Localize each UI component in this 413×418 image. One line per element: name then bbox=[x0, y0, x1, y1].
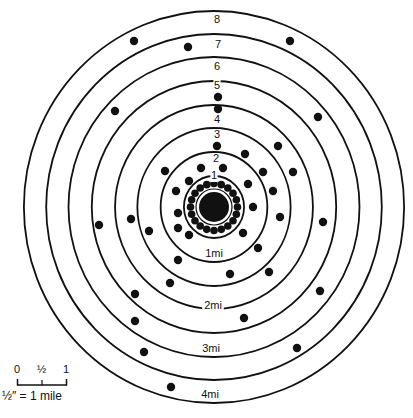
point-marker bbox=[293, 344, 301, 352]
point-marker bbox=[239, 229, 247, 237]
ring-number-label: 3 bbox=[214, 128, 220, 140]
scale-tick-1: 1 bbox=[63, 363, 69, 375]
point-marker bbox=[174, 256, 182, 264]
point-marker bbox=[314, 113, 322, 121]
ring-number-label: 8 bbox=[214, 13, 220, 25]
point-marker bbox=[241, 150, 249, 158]
point-marker bbox=[131, 317, 139, 325]
scale-tick-half: ½ bbox=[37, 363, 46, 375]
ring-number-label: 2 bbox=[213, 152, 219, 164]
ring-number-label: 6 bbox=[214, 60, 220, 72]
point-marker bbox=[131, 290, 139, 298]
ring-number-label: 5 bbox=[214, 79, 220, 91]
distance-label: 2mi bbox=[204, 299, 222, 311]
point-marker bbox=[219, 164, 227, 172]
point-marker bbox=[319, 218, 327, 226]
scale-tick-0: 0 bbox=[14, 363, 20, 375]
point-marker bbox=[274, 142, 282, 150]
point-marker bbox=[213, 142, 221, 150]
point-marker bbox=[289, 168, 297, 176]
core-dot bbox=[187, 203, 195, 211]
point-marker bbox=[254, 244, 262, 252]
point-marker bbox=[226, 270, 234, 278]
point-marker bbox=[130, 37, 138, 45]
point-marker bbox=[249, 203, 257, 211]
point-marker bbox=[166, 279, 174, 287]
ring-number-label: 4 bbox=[214, 113, 220, 125]
point-marker bbox=[240, 314, 248, 322]
point-marker bbox=[140, 348, 148, 356]
core-dot bbox=[210, 227, 218, 235]
core-dot bbox=[224, 222, 232, 230]
point-marker bbox=[259, 168, 267, 176]
core-dot bbox=[234, 203, 242, 211]
point-marker bbox=[111, 107, 119, 115]
point-marker bbox=[167, 383, 175, 391]
point-marker bbox=[185, 177, 193, 185]
distance-label: 1mi bbox=[205, 247, 223, 259]
core-dot bbox=[217, 226, 225, 234]
point-marker bbox=[174, 209, 182, 217]
core-dot bbox=[217, 181, 225, 189]
core-dot bbox=[196, 184, 204, 192]
core-dot bbox=[229, 189, 237, 197]
point-marker bbox=[269, 187, 277, 195]
point-marker bbox=[127, 215, 135, 223]
point-marker bbox=[316, 287, 324, 295]
point-marker bbox=[185, 231, 193, 239]
point-marker bbox=[276, 213, 284, 221]
core-dot bbox=[203, 226, 211, 234]
point-marker bbox=[265, 268, 273, 276]
point-marker bbox=[197, 164, 205, 172]
core-dot bbox=[203, 181, 211, 189]
concentric-ring-diagram: 123456781mi2mi3mi4mi bbox=[0, 0, 413, 418]
central-blob bbox=[199, 192, 229, 222]
point-marker bbox=[214, 93, 222, 101]
point-marker bbox=[244, 180, 252, 188]
distance-label: 3mi bbox=[202, 342, 220, 354]
core-dot bbox=[188, 210, 196, 218]
central-cluster bbox=[187, 180, 242, 235]
scale-caption: ½″ = 1 mile bbox=[2, 389, 62, 403]
core-dot bbox=[233, 210, 241, 218]
point-marker bbox=[161, 167, 169, 175]
core-dot bbox=[191, 217, 199, 225]
ring-number-label: 1 bbox=[211, 169, 217, 181]
point-marker bbox=[172, 187, 180, 195]
point-marker bbox=[286, 37, 294, 45]
core-dot bbox=[188, 196, 196, 204]
scale-bar bbox=[17, 379, 67, 386]
ring-number-label: 7 bbox=[215, 38, 221, 50]
distance-label: 4mi bbox=[201, 388, 219, 400]
core-dot bbox=[233, 196, 241, 204]
point-marker bbox=[174, 224, 182, 232]
point-marker bbox=[145, 227, 153, 235]
point-marker bbox=[95, 221, 103, 229]
point-marker bbox=[184, 43, 192, 51]
